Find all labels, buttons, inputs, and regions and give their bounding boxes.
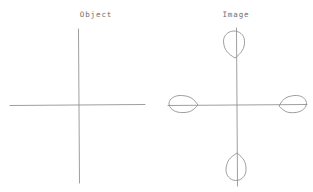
object-panel: Object bbox=[10, 10, 145, 183]
lobe-top bbox=[224, 31, 245, 58]
lobe-bottom bbox=[226, 153, 246, 180]
figure-canvas: Object Image bbox=[0, 0, 313, 192]
object-vertical-axis bbox=[79, 29, 80, 183]
image-vertical-axis bbox=[237, 28, 238, 186]
image-panel: Image bbox=[168, 10, 307, 186]
image-panel-label: Image bbox=[222, 10, 249, 19]
figure-root: Object Image bbox=[0, 0, 313, 192]
object-panel-label: Object bbox=[80, 10, 113, 19]
object-horizontal-axis bbox=[10, 105, 145, 106]
lobe-right bbox=[279, 95, 306, 112]
lobe-left bbox=[169, 95, 198, 112]
image-horizontal-axis bbox=[168, 105, 307, 106]
